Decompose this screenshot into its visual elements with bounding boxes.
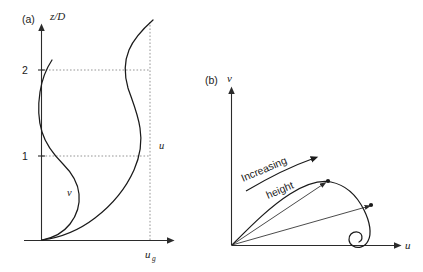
panel-b-vector-tip-dot-2: [369, 203, 373, 207]
panel-b-x-axis-label: u: [405, 239, 411, 251]
panel-b-label: (b): [205, 74, 218, 86]
panel-a-curve-v: [39, 60, 80, 240]
panel-a: (a) z/D u g 1 2 u v: [22, 10, 168, 263]
panel-a-label: (a): [22, 13, 35, 25]
panel-b-vector-tip-dot-1: [326, 179, 330, 183]
panel-b-annotation-line2: height: [264, 179, 295, 201]
figure-svg: (a) z/D u g 1 2 u v: [0, 0, 423, 272]
panel-b-hodograph-curve: [232, 182, 370, 248]
panel-a-curve-u-label: u: [159, 140, 164, 151]
panel-a-x-axis-sublabel: g: [152, 254, 156, 263]
panel-b: (b) v u Increasing height: [205, 72, 411, 251]
panel-b-vector-arrow-2: [232, 207, 366, 245]
panel-a-curve-v-label: v: [67, 187, 72, 198]
figure-container: (a) z/D u g 1 2 u v: [0, 0, 423, 272]
panel-b-annotation-line1: Increasing: [239, 154, 288, 184]
panel-b-y-axis-label: v: [227, 72, 232, 84]
panel-a-curve-u: [42, 20, 153, 240]
panel-a-y-axis-label: z/D: [49, 10, 65, 22]
panel-a-tick-label-1: 1: [22, 150, 28, 162]
panel-a-x-axis-label: u: [145, 248, 151, 260]
panel-a-tick-label-2: 2: [22, 64, 28, 76]
